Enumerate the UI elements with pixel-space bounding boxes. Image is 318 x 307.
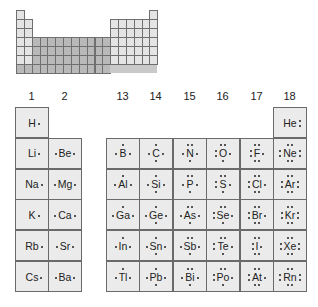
element-symbol: Se <box>217 209 230 221</box>
electron-dot <box>279 274 281 276</box>
element-cell-ba: Ba <box>48 261 82 292</box>
mini-periodic-table <box>16 10 158 73</box>
element-cell-k: K <box>15 199 49 230</box>
element-symbol: P <box>186 178 193 190</box>
electron-dot <box>297 186 299 188</box>
electron-dot <box>224 175 226 177</box>
electron-dot <box>279 279 281 281</box>
mini-period7-band <box>110 65 157 73</box>
electron-dot <box>222 222 224 224</box>
electron-dot <box>291 144 293 146</box>
electron-dot <box>197 277 199 279</box>
electron-dot <box>231 277 233 279</box>
electron-dot <box>155 284 157 286</box>
electron-dot <box>258 191 260 193</box>
element-symbol: Na <box>25 178 38 190</box>
element-cell-i: I <box>240 230 274 261</box>
electron-dot <box>258 268 260 270</box>
electron-dot <box>112 215 114 217</box>
electron-dot <box>155 175 157 177</box>
electron-dot <box>287 237 289 239</box>
electron-dot <box>187 206 189 208</box>
electron-dot <box>287 268 289 270</box>
element-cell-al: Al <box>106 169 140 200</box>
electron-dot <box>54 184 56 186</box>
electron-dot <box>298 243 300 245</box>
element-cell-rn: Rn <box>273 261 307 292</box>
electron-dot <box>254 206 256 208</box>
electron-dot <box>198 215 200 217</box>
electron-dot <box>191 175 193 177</box>
group-header-2: 2 <box>48 90 81 102</box>
element-symbol: C <box>152 147 160 159</box>
electron-dot <box>262 153 264 155</box>
element-symbol: N <box>186 147 194 159</box>
electron-dot <box>155 191 157 193</box>
electron-dot <box>55 153 57 155</box>
element-symbol: I <box>256 240 259 252</box>
electron-dot <box>258 206 260 208</box>
electron-dot <box>248 186 250 188</box>
electron-dot <box>299 125 301 127</box>
element-symbol: Ba <box>59 271 72 283</box>
electron-dot <box>231 246 233 248</box>
electron-dot <box>191 237 193 239</box>
element-cell-at: At <box>240 261 274 292</box>
electron-dot <box>164 277 166 279</box>
electron-dot <box>250 150 252 152</box>
electron-dot <box>38 123 40 125</box>
electron-dot <box>297 181 299 183</box>
electron-dot <box>38 215 40 217</box>
electron-dot <box>254 160 256 162</box>
electron-dot <box>298 248 300 250</box>
electron-dot <box>191 206 193 208</box>
electron-dot <box>155 268 157 270</box>
electron-dot <box>254 237 256 239</box>
electron-dot <box>155 237 157 239</box>
electron-dot <box>74 215 76 217</box>
electron-dot <box>213 212 215 214</box>
electron-dot <box>73 153 75 155</box>
electron-dot <box>264 277 266 279</box>
electron-dot <box>38 153 40 155</box>
electron-dot <box>222 284 224 286</box>
electron-dot <box>189 222 191 224</box>
element-cell-rb: Rb <box>15 230 49 261</box>
electron-dot <box>250 155 252 157</box>
electron-dot <box>254 253 256 255</box>
element-cell-b: B <box>106 138 140 169</box>
electron-dot <box>115 277 117 279</box>
electron-dot <box>213 279 215 281</box>
electron-dot <box>198 246 200 248</box>
electron-dot <box>264 184 266 186</box>
electron-dot <box>155 144 157 146</box>
element-cell-ar: Ar <box>273 169 307 200</box>
electron-dot <box>231 215 233 217</box>
electron-dot <box>129 246 131 248</box>
element-cell-sb: Sb <box>173 230 207 261</box>
electron-dot <box>115 153 117 155</box>
electron-dot <box>229 153 231 155</box>
electron-dot <box>299 279 301 281</box>
element-cell-he: He <box>273 107 307 138</box>
element-cell-sn: Sn <box>139 230 173 261</box>
group-header-1: 1 <box>15 90 48 102</box>
element-cell-ca: Ca <box>48 199 82 230</box>
electron-dot <box>220 175 222 177</box>
electron-dot <box>130 184 132 186</box>
electron-dot <box>155 160 157 162</box>
element-symbol: Te <box>217 240 228 252</box>
electron-dot <box>258 175 260 177</box>
electron-dot <box>254 191 256 193</box>
electron-dot <box>145 215 147 217</box>
electron-dot <box>115 246 117 248</box>
electron-dot <box>215 181 217 183</box>
element-symbol: Ca <box>58 209 71 221</box>
element-cell-kr: Kr <box>273 199 307 230</box>
group-header-15: 15 <box>173 90 206 102</box>
element-symbol: At <box>252 271 262 283</box>
electron-dot <box>264 215 266 217</box>
element-cell-as: As <box>173 199 207 230</box>
element-symbol: Ga <box>116 209 130 221</box>
element-cell-cl: Cl <box>240 169 274 200</box>
